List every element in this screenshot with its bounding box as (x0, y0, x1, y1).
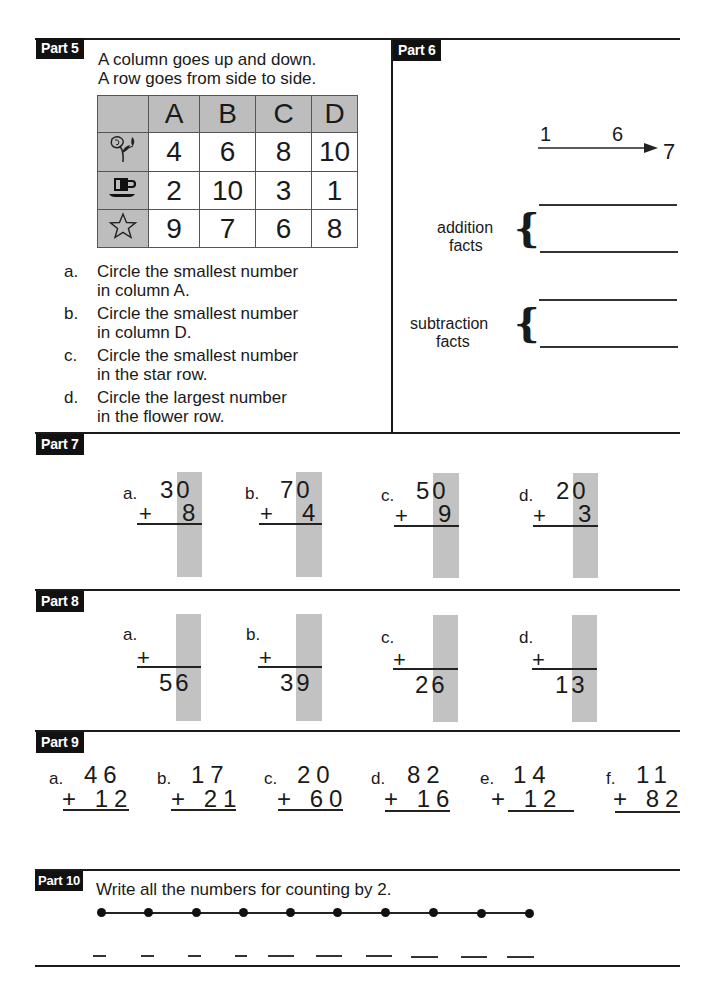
column-header-c: C (256, 96, 312, 133)
question-letter: c. (64, 346, 77, 365)
answer-rule (532, 668, 597, 670)
number-line-dot (429, 908, 438, 917)
count-answer-blank-10[interactable] (507, 956, 534, 958)
question-text-line1: Circle the smallest number (97, 262, 298, 281)
question-text-line1: Circle the smallest number (97, 346, 298, 365)
subtraction-facts-label-2: facts (436, 332, 470, 351)
problem-letter: c. (381, 628, 394, 647)
answer-rule (137, 666, 201, 668)
answer-rule (258, 666, 322, 668)
answer-rule (171, 809, 236, 811)
question-text-line2: in column A. (97, 281, 190, 300)
problem-letter: c. (264, 769, 277, 788)
number-line-dot (239, 908, 248, 917)
problem-addend: 9 (438, 501, 454, 527)
plus-sign: + (533, 505, 546, 527)
cell-flower-b[interactable]: 6 (200, 133, 256, 172)
rule-part8 (35, 589, 680, 591)
subtraction-brace-icon: { (514, 303, 540, 343)
cell-flower-d[interactable]: 10 (312, 133, 358, 172)
count-answer-blank-1[interactable] (93, 955, 106, 957)
answer-rule (394, 525, 459, 527)
question-letter: d. (64, 388, 78, 407)
plus-sign: + (260, 503, 273, 525)
cell-cup-d[interactable]: 1 (312, 172, 358, 210)
subtraction-fact-line-2[interactable] (540, 346, 678, 348)
rule-part10 (35, 869, 680, 871)
answer-rule (533, 525, 598, 527)
cell-cup-c[interactable]: 3 (256, 172, 312, 210)
problem-sum: 56 (159, 670, 192, 696)
part10-label: Part 10 (35, 871, 83, 891)
answer-rule (385, 810, 450, 812)
cell-flower-c[interactable]: 8 (256, 133, 312, 172)
count-answer-blank-4[interactable] (235, 955, 247, 957)
problem-letter: d. (519, 628, 533, 647)
star-icon (98, 210, 149, 248)
cell-cup-a[interactable]: 2 (149, 172, 200, 210)
number-line-dot (286, 908, 295, 917)
part5-label: Part 5 (36, 38, 84, 59)
number-line-dot (381, 908, 390, 917)
addition-fact-line-2[interactable] (540, 251, 678, 253)
cell-flower-a[interactable]: 4 (149, 133, 200, 172)
part9-label: Part 9 (36, 732, 84, 753)
count-answer-blank-7[interactable] (366, 955, 392, 957)
family-big-number: 7 (663, 140, 675, 164)
problem-sum: 26 (415, 672, 448, 698)
addition-facts-label-2: facts (449, 236, 483, 255)
number-line-dot (97, 908, 106, 917)
count-answer-blank-8[interactable] (411, 956, 438, 958)
number-line-dot (144, 908, 153, 917)
problem-letter: b. (245, 484, 259, 503)
number-line (101, 912, 529, 914)
count-answer-blank-9[interactable] (461, 956, 487, 958)
answer-rule (278, 809, 343, 811)
cell-star-b[interactable]: 7 (200, 210, 256, 248)
subtraction-fact-line-1[interactable] (539, 299, 677, 301)
cell-star-c[interactable]: 6 (256, 210, 312, 248)
question-text-line1: Circle the smallest number (97, 304, 298, 323)
rule-part9 (35, 730, 680, 732)
count-answer-blank-3[interactable] (188, 955, 201, 957)
cell-star-d[interactable]: 8 (312, 210, 358, 248)
plus-sign: + (139, 503, 152, 525)
table-row-star: 9 7 6 8 (98, 210, 358, 248)
problem-sum: 13 (555, 672, 588, 698)
question-text-line2: in the flower row. (97, 407, 225, 426)
cell-cup-b[interactable]: 10 (200, 172, 256, 210)
rule-part7 (35, 432, 680, 434)
answer-rule (508, 810, 574, 812)
part6-label: Part 6 (393, 40, 441, 61)
question-text-line2: in the star row. (97, 365, 208, 384)
count-answer-blank-6[interactable] (316, 955, 342, 957)
addition-fact-line-1[interactable] (539, 204, 677, 206)
family-arrow (536, 142, 660, 154)
column-header-b: B (200, 96, 256, 133)
rule-bottom (35, 965, 680, 967)
count-answer-blank-2[interactable] (141, 955, 154, 957)
flower-icon (98, 133, 149, 172)
problem-letter: d. (519, 486, 533, 505)
column-header-a: A (149, 96, 200, 133)
problem-bottom-number: + 12 (491, 786, 562, 812)
part10-instruction: Write all the numbers for counting by 2. (96, 880, 391, 899)
part5-table: A B C D 4 6 8 10 2 (97, 95, 358, 248)
number-line-dot (333, 908, 342, 917)
cell-star-a[interactable]: 9 (149, 210, 200, 248)
problem-addend: 3 (578, 501, 594, 527)
problem-letter: b. (246, 625, 260, 644)
answer-rule (393, 668, 458, 670)
column-header-d: D (312, 96, 358, 133)
problem-bottom-number: + 16 (384, 786, 455, 812)
problem-bottom-number: + 82 (613, 786, 684, 812)
corner-cell (98, 96, 149, 133)
problem-letter: a. (123, 625, 137, 644)
subtraction-facts-label-1: subtraction (410, 314, 488, 333)
question-text-line1: Circle the largest number (97, 388, 287, 407)
part8-label: Part 8 (36, 591, 84, 612)
answer-rule (615, 811, 680, 813)
table-row-flower: 4 6 8 10 (98, 133, 358, 172)
part5-intro-line1: A column goes up and down. (98, 50, 316, 69)
count-answer-blank-5[interactable] (268, 955, 294, 957)
